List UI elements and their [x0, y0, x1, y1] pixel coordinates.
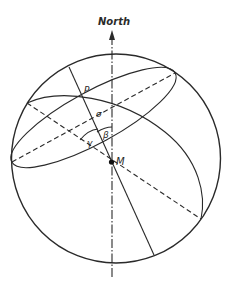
celestial-sphere-diagram: North P σ β γ M — [0, 0, 232, 291]
label-m: M — [116, 156, 125, 167]
label-p: P — [84, 85, 90, 95]
great-circle-arc — [27, 96, 203, 219]
north-arrow-icon — [109, 30, 115, 40]
ellipse-major-axis — [12, 73, 175, 162]
label-beta: β — [102, 130, 109, 140]
point-m — [109, 159, 114, 164]
great-circle-diameter — [27, 103, 201, 219]
label-sigma: σ — [96, 109, 102, 119]
small-circle-ellipse — [0, 50, 188, 185]
north-label: North — [98, 16, 130, 27]
label-gamma: γ — [87, 138, 93, 148]
